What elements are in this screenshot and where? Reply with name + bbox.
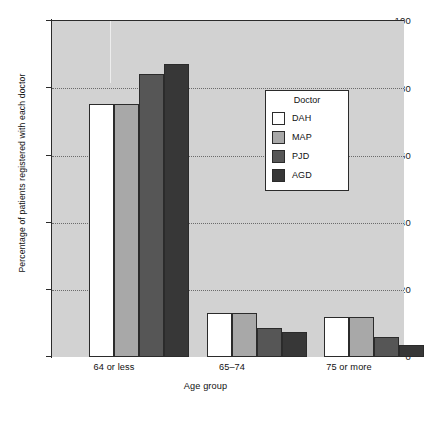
bar-64-or-less-map	[114, 104, 139, 357]
legend-label-map: MAP	[292, 132, 312, 142]
gridline-80	[52, 88, 404, 89]
bar-64-or-less-pjd	[139, 74, 164, 357]
bar-64-or-less-dah	[89, 104, 114, 357]
bar-75-or-more-pjd	[374, 337, 399, 357]
bar-65-74-pjd	[257, 328, 282, 357]
bar-65-74-dah	[207, 313, 232, 357]
bar-65-74-map	[232, 313, 257, 357]
legend-label-pjd: PJD	[292, 151, 309, 161]
legend-swatch-agd-icon	[272, 169, 285, 182]
bar-75-or-more-agd	[399, 345, 424, 357]
y-axis-title: Percentage of patients registered with e…	[17, 23, 27, 323]
legend-swatch-map-icon	[272, 131, 285, 144]
legend-label-agd: AGD	[292, 170, 312, 180]
legend-title: Doctor	[272, 95, 342, 105]
bar-65-74-agd	[282, 332, 307, 357]
scan-artifact-line	[110, 21, 111, 83]
legend: Doctor DAH MAP PJD AGD	[265, 90, 349, 191]
plot-area	[52, 20, 404, 357]
x-tick-label-65-74: 65–74	[177, 362, 287, 372]
x-tick-label-75-or-more: 75 or more	[294, 362, 404, 372]
legend-item-pjd[interactable]: PJD	[272, 147, 342, 165]
legend-item-dah[interactable]: DAH	[272, 109, 342, 127]
legend-item-map[interactable]: MAP	[272, 128, 342, 146]
x-tick-label-64-or-less: 64 or less	[59, 362, 169, 372]
legend-label-dah: DAH	[292, 113, 311, 123]
figure-caption	[4, 418, 334, 426]
legend-item-agd[interactable]: AGD	[272, 166, 342, 184]
bar-75-or-more-map	[349, 317, 374, 357]
legend-swatch-pjd-icon	[272, 150, 285, 163]
x-axis-title: Age group	[0, 381, 411, 391]
bar-75-or-more-dah	[324, 317, 349, 357]
bar-64-or-less-agd	[164, 64, 189, 357]
legend-swatch-dah-icon	[272, 112, 285, 125]
